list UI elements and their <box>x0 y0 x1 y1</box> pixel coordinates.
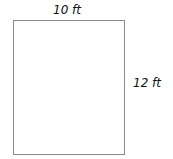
height-label: 12 ft <box>133 77 161 89</box>
width-label: 10 ft <box>53 4 81 16</box>
rectangle-shape <box>13 20 125 155</box>
